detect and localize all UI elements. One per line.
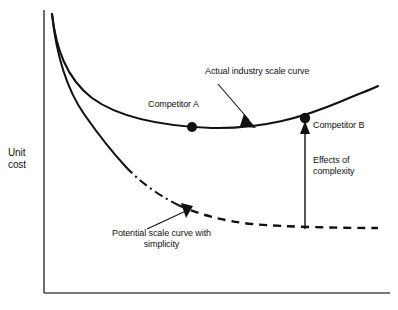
y-axis-label-line1: Unit bbox=[8, 147, 25, 158]
y-axis-label-line2: cost bbox=[8, 159, 26, 170]
competitor-a-marker bbox=[187, 122, 197, 132]
potential-scale-curve-label: Potential scale curve withsimplicity bbox=[112, 228, 211, 250]
scale-curve-figure: Unitcost Actual industry scale curve Com… bbox=[0, 0, 398, 310]
competitor-b-label: Competitor B bbox=[313, 120, 364, 131]
actual-industry-scale-curve-label: Actual industry scale curve bbox=[205, 66, 309, 77]
potential-scale-curve-line2: simplicity bbox=[144, 239, 180, 249]
potential-scale-curve-line1: Potential scale curve with bbox=[112, 228, 211, 238]
effects-of-complexity-line1: Effects of bbox=[313, 155, 349, 165]
effects-of-complexity-line2: complexity bbox=[313, 166, 355, 176]
competitor-a-label: Competitor A bbox=[148, 99, 199, 110]
effects-of-complexity-label: Effects ofcomplexity bbox=[313, 155, 355, 177]
competitor-b-marker bbox=[300, 113, 310, 123]
y-axis-label: Unitcost bbox=[8, 147, 26, 171]
